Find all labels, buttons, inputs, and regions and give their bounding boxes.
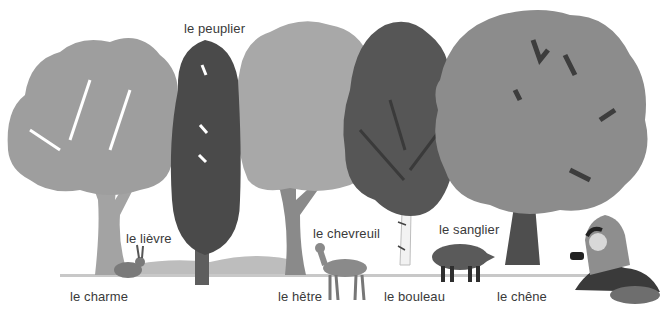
person-with-binoculars [570,215,660,304]
chevreuil-animal [315,243,367,300]
label-lievre: le lièvre [126,232,172,245]
label-chene: le chêne [497,290,547,303]
label-chevreuil: le chevreuil [313,227,380,240]
forest-illustration [0,0,665,309]
label-bouleau: le bouleau [384,290,445,303]
label-hetre: le hêtre [278,290,322,303]
peuplier-tree [171,40,241,285]
label-charme: le charme [70,290,128,303]
label-peuplier: le peuplier [184,22,245,35]
label-sanglier: le sanglier [439,223,499,236]
